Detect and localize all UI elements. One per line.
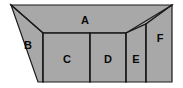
face-group: [11, 5, 172, 82]
face-label-e: E: [132, 53, 139, 65]
face-label-d: D: [104, 53, 112, 65]
face-label-f: F: [157, 32, 164, 44]
face-label-a: A: [81, 14, 89, 26]
face-label-b: B: [24, 39, 32, 51]
diagram-canvas: A B C D E F: [0, 0, 183, 88]
face-label-c: C: [63, 53, 71, 65]
solid-figure: A B C D E F: [0, 0, 183, 88]
